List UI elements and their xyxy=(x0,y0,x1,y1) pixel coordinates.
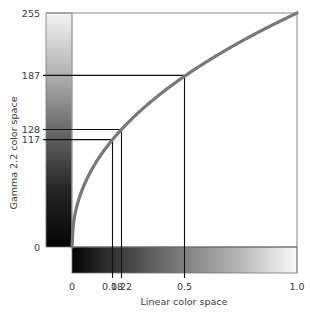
x-tick-label: 0.22 xyxy=(111,281,132,292)
x-tick-label: 0.5 xyxy=(177,281,192,292)
y-tick-label: 0 xyxy=(34,242,40,253)
y-tick-label: 187 xyxy=(22,70,40,81)
x-tick-label: 0 xyxy=(69,281,75,292)
y-axis-ticks: 0117128187255 xyxy=(22,8,40,253)
y-tick-label: 255 xyxy=(22,8,40,19)
x-axis-title: Linear color space xyxy=(141,296,228,307)
x-tick-label: 1.0 xyxy=(289,281,304,292)
gamma-chart: 0117128187255 00.180.220.51.0 Linear col… xyxy=(0,0,310,314)
y-tick-label: 128 xyxy=(22,124,40,135)
y-axis-title: Gamma 2.2 color space xyxy=(8,96,19,209)
y-tick-label: 117 xyxy=(22,134,40,145)
plot-frame xyxy=(46,13,297,273)
x-axis-ticks: 00.180.220.51.0 xyxy=(69,281,305,292)
